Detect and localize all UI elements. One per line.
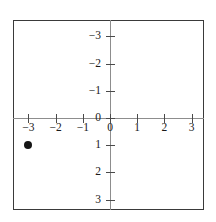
- x-axis-tick-label: 3: [189, 122, 195, 134]
- y-axis-tick: [106, 91, 115, 92]
- y-axis-tick-label: 3: [95, 194, 106, 206]
- x-axis-tick-label: 0: [107, 122, 113, 134]
- plotted-point: [24, 141, 32, 149]
- x-axis-tick-label: 2: [162, 122, 168, 134]
- y-axis-tick: [106, 64, 115, 65]
- y-axis-tick: [106, 118, 115, 119]
- plot-frame: [13, 20, 204, 210]
- y-axis-tick-label: −3: [89, 31, 106, 43]
- y-axis-tick-label: −1: [89, 85, 106, 97]
- y-axis-tick-label: −2: [89, 58, 106, 70]
- y-axis-tick: [106, 200, 115, 201]
- coordinate-plane-figure: −3−2−101233210−1−2−3: [0, 0, 216, 222]
- x-axis-tick-label: 1: [134, 122, 140, 134]
- y-axis-tick-label: 1: [95, 139, 106, 151]
- y-axis-tick: [106, 172, 115, 173]
- y-axis-tick: [106, 36, 115, 37]
- x-axis-tick-label: −1: [77, 122, 89, 134]
- y-axis-tick: [106, 145, 115, 146]
- x-axis-tick-label: −2: [49, 122, 61, 134]
- y-axis-tick-label: 0: [95, 112, 106, 124]
- x-axis-tick-label: −3: [22, 122, 34, 134]
- y-axis-tick-label: 2: [95, 167, 106, 179]
